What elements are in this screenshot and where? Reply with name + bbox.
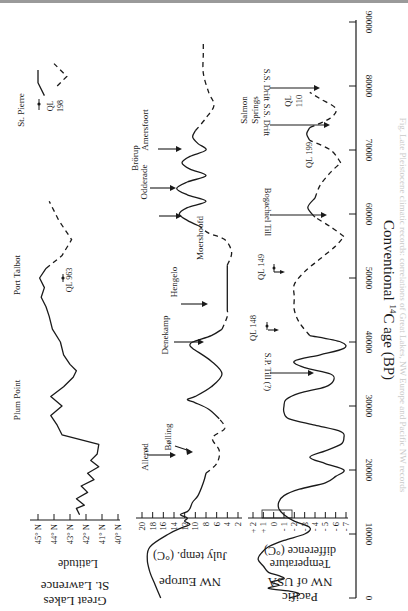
age-tick-label: 0 (364, 596, 374, 601)
value-tick-label: - 1 (279, 522, 289, 531)
label-ql149: QL 149 (256, 254, 266, 280)
value-tick-label: 10 (190, 522, 200, 531)
label-ql110-b: 110 (294, 95, 304, 107)
value-tick-label: 18 (148, 522, 158, 531)
age-tick-label: 50000 (364, 267, 374, 290)
age-tick-label: 30000 (364, 395, 374, 418)
value-tick-label: - 4 (310, 521, 320, 531)
label-ql110-a: QL (283, 95, 293, 106)
label-odderade: Odderade (139, 165, 149, 200)
temp-diff-axis-title-2: difference (°C) (264, 544, 336, 558)
age-tick-label: 80000 (364, 75, 374, 98)
label-sp-till: S.P. Till (?) (263, 353, 273, 391)
age-tick-label: 40000 (364, 331, 374, 354)
label-brorup: Brörup (130, 145, 140, 171)
value-tick-label: 40° N (113, 524, 123, 544)
label-ql198-b: 198 (56, 100, 65, 112)
st-pierre-curve (38, 70, 44, 96)
region-label-great-lakes: Great Lakes (43, 594, 106, 609)
label-bogachiel: Bogachiel Till (263, 188, 273, 237)
latitude-axis-title: Latitude (58, 557, 98, 571)
label-ss-drift-1: S.S. Drift (262, 104, 272, 137)
age-tick-label: 10000 (364, 523, 374, 546)
region-label-st-lawrence: St. Lawrence (40, 579, 109, 594)
ql198-marker (37, 99, 40, 110)
label-allerod: Allerød (140, 443, 150, 471)
region-label-nw-europe: NW Europe (159, 575, 221, 590)
label-moershoofd: Moershoofd (195, 216, 205, 260)
pacific-arrows (266, 85, 331, 376)
value-tick-label: 20 (137, 522, 147, 531)
label-plum-point: Plum Point (12, 379, 22, 420)
region-label-pacific: Pacific (282, 590, 318, 605)
age-axis: 0100002000030000400005000060000700008000… (349, 11, 398, 601)
value-tick-label: - 5 (320, 522, 330, 531)
value-tick-label: 41° N (97, 524, 107, 544)
label-st-pierre: St. Pierre (16, 93, 26, 127)
value-tick-label: - 7 (341, 522, 351, 531)
temp-diff-axis-title-1: Temperature (270, 557, 330, 571)
value-tick-label: 8 (201, 522, 211, 526)
age-tick-label: 60000 (364, 203, 374, 226)
great-lakes-curve-dashed (46, 201, 72, 268)
label-ql199: QL 199 (304, 142, 314, 168)
value-tick-label: - 2 (289, 522, 299, 531)
nw-europe-arrows (147, 146, 208, 458)
st-pierre-curve-dashed (54, 64, 67, 86)
label-amersfoort: Amersfoort (140, 109, 150, 151)
label-bolling: Bølling (163, 423, 173, 451)
age-tick-label: 20000 (364, 459, 374, 482)
caption-bleed: Fig. Late Pleistocene climatic records: … (398, 118, 408, 493)
value-tick-label: 42° N (81, 524, 91, 544)
pacific-nw-curve-dashed (294, 92, 344, 335)
value-tick-label: + 2 (248, 522, 258, 533)
label-salmon: Salmon (239, 96, 249, 124)
panel-pacific-nw: + 2+ 10- 1- 2- 3- 4- 5- 6- 7 difference … (239, 69, 351, 605)
rotated-paleoclimate-figure: Fig. Late Pleistocene climatic records: … (0, 0, 408, 611)
label-ss-drift-2: S.S. Drift (262, 69, 272, 102)
label-springs: Springs (250, 96, 260, 124)
panel-nw-europe: 2018161412108642 July temp. (°C) NW Euro… (130, 41, 243, 598)
value-tick-label: 43° N (65, 524, 75, 544)
value-tick-label: 16 (158, 522, 168, 531)
age-tick-label: 90000 (364, 11, 374, 34)
label-ql148: QL 148 (248, 315, 258, 341)
value-tick-label: 4 (222, 521, 232, 526)
label-ql198-a: QL (46, 101, 55, 112)
value-tick-label: 6 (212, 522, 222, 526)
value-tick-label: 2 (233, 522, 243, 526)
label-ql963: QL 963 (65, 268, 74, 292)
label-port-talbot: Port Talbot (12, 255, 22, 295)
region-label-nw-usa: NW of USA (267, 575, 332, 590)
value-tick-label: - 6 (331, 522, 341, 531)
value-tick-label: + 1 (258, 522, 268, 533)
great-lakes-curve (40, 268, 99, 514)
svg-text:Fig. Late Pleistocene climatic: Fig. Late Pleistocene climatic records: … (398, 118, 408, 493)
panel-great-lakes: 45° N44° N43° N42° N41° N40° N Latitude … (12, 64, 123, 609)
july-temp-axis-title: July temp. (°C) (153, 549, 227, 563)
value-tick-label: 44° N (49, 524, 59, 544)
value-tick-label: 45° N (33, 524, 43, 544)
age-axis-title: Conventional 14C age (BP) (380, 220, 398, 380)
value-tick-label: 0 (269, 522, 279, 526)
age-tick-label: 70000 (364, 139, 374, 162)
label-denekamp: Denekamp (160, 315, 170, 354)
label-hengelo: Hengelo (169, 266, 179, 297)
